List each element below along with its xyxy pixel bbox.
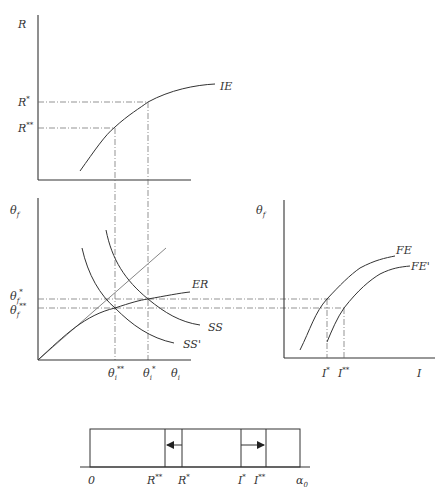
middle-left-panel: θf θf* θf** ER SS SS' θi** θi* θi xyxy=(10,198,344,382)
ss-prime-label: SS' xyxy=(183,338,201,351)
i-double-star-label: I** xyxy=(337,366,350,380)
bar-label-r-double-star: R** xyxy=(146,473,163,487)
theta-i-double-star-label: θi** xyxy=(108,365,124,382)
ss-curve xyxy=(106,230,200,325)
ss-prime-curve xyxy=(82,248,174,343)
middle-right-panel: θf FE FE' I* I** I xyxy=(256,200,435,380)
bar-label-i-double-star: I** xyxy=(253,473,266,487)
ie-curve xyxy=(80,84,215,171)
bar-label-zero: 0 xyxy=(88,474,95,487)
theta-i-star-label: θi* xyxy=(143,365,156,382)
top-panel: R R* R** IE xyxy=(17,15,232,180)
r-double-star-label: R** xyxy=(17,121,34,135)
economic-diagram: R R* R** IE θf θf* θf** ER SS SS' θi** θ… xyxy=(0,0,446,492)
i-axis-label: I xyxy=(416,367,422,380)
fe-label: FE xyxy=(395,244,412,257)
r-star-label: R* xyxy=(17,95,30,109)
ml-y-label: θf xyxy=(10,204,21,219)
er-label: ER xyxy=(191,278,208,291)
top-y-label: R xyxy=(17,18,26,31)
bottom-bar: 0 R** R* I* I** α0 xyxy=(80,429,310,489)
bar-label-i-star: I* xyxy=(237,473,246,487)
45-degree-line xyxy=(38,248,166,360)
bar-outline xyxy=(90,429,300,467)
bar-label-alpha0: α0 xyxy=(296,474,308,489)
fe-prime-label: FE' xyxy=(410,260,430,273)
er-curve xyxy=(38,292,190,360)
ss-label: SS xyxy=(208,321,223,334)
ie-label: IE xyxy=(219,80,232,93)
bar-label-r-star: R* xyxy=(177,473,190,487)
theta-i-axis-label: θi xyxy=(171,367,180,382)
theta-f-double-star-label: θf** xyxy=(10,302,27,319)
fe-prime-curve xyxy=(327,266,410,342)
i-star-label: I* xyxy=(321,366,330,380)
mr-y-label: θf xyxy=(256,204,267,219)
